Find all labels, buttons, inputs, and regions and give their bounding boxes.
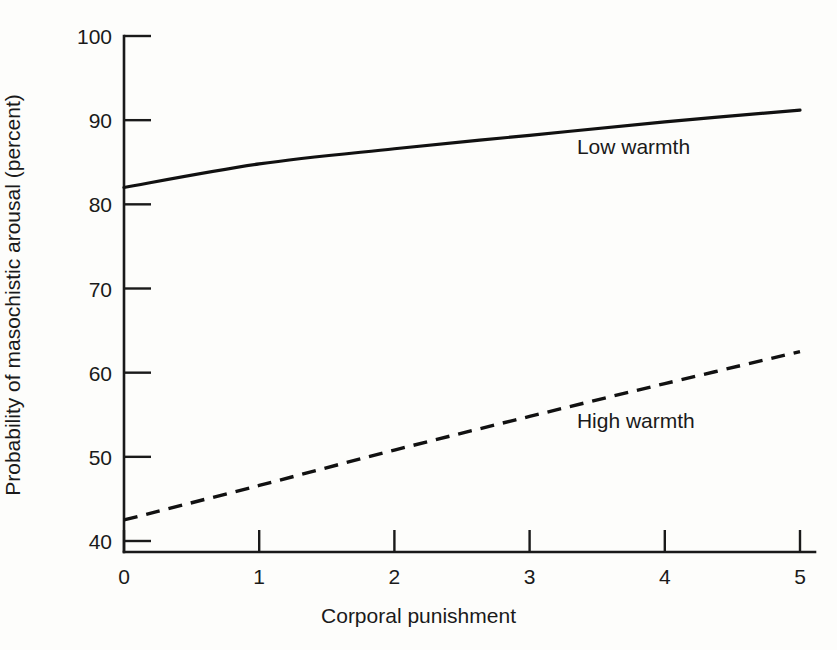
x-axis-tick-label: 4	[659, 566, 671, 587]
x-axis-tick-label: 3	[524, 566, 536, 587]
series-line-high-warmth	[124, 352, 800, 520]
y-axis-tick-label: 40	[60, 531, 112, 552]
y-axis-tick-label: 80	[60, 194, 112, 215]
chart-plot-area	[0, 0, 837, 650]
y-axis-tick-label: 50	[60, 446, 112, 467]
y-axis-title: Probability of masochistic arousal (perc…	[1, 94, 25, 496]
y-axis-tick-label: 70	[60, 278, 112, 299]
chart-figure: 100908070605040 012345 Low warmth High w…	[0, 0, 837, 650]
x-axis-tick-label: 5	[794, 566, 806, 587]
x-axis-tick-label: 2	[389, 566, 401, 587]
x-axis-tick-label: 0	[118, 566, 130, 587]
series-label-low-warmth: Low warmth	[577, 136, 690, 157]
y-axis-tick-label: 60	[60, 362, 112, 383]
x-axis-tick-label: 1	[253, 566, 265, 587]
x-axis-ticks	[124, 530, 800, 552]
y-axis-tick-label: 90	[60, 110, 112, 131]
axes-group	[124, 36, 815, 552]
series-line-low-warmth	[124, 110, 800, 187]
x-axis-title: Corporal punishment	[0, 604, 837, 628]
series-label-high-warmth: High warmth	[577, 410, 695, 431]
y-axis-ticks	[124, 36, 151, 541]
data-series-group	[124, 110, 800, 520]
y-axis-tick-label: 100	[60, 26, 112, 47]
